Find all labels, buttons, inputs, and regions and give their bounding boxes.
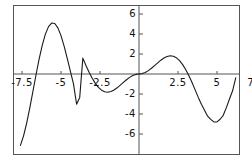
x-tick-label: 5: [214, 78, 221, 88]
x-tick-label: 2.5: [169, 78, 186, 88]
x-tick-label: -7.5: [11, 78, 33, 88]
x-tick-label: -5: [56, 78, 67, 88]
y-tick-label: 6: [129, 9, 136, 19]
y-tick-label: -6: [125, 129, 136, 139]
plot-figure: -7.5-5-2.52.557.5 642-2-4-6: [0, 0, 252, 165]
y-tick-label: 2: [129, 49, 136, 59]
y-tick-label: -4: [125, 109, 136, 119]
y-tick-label: -2: [125, 89, 136, 99]
x-tick-label: -2.5: [89, 78, 111, 88]
y-tick-label: 4: [129, 29, 136, 39]
x-tick-label: 7.5: [247, 78, 252, 88]
